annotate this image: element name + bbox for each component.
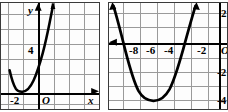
left-origin-label: O [42, 95, 50, 106]
right-x-tick-label-neg6: -6 [146, 45, 155, 56]
left-x-axis-name: x [88, 95, 94, 106]
left-y-axis-arrow [35, 3, 42, 11]
right-y-tick-label-neg4: -4 [217, 95, 226, 106]
right-origin-label: O [221, 45, 228, 56]
right-x-tick-label-neg2: -2 [197, 45, 206, 56]
right-y-tick-label-neg2: -2 [217, 67, 226, 78]
left-y-axis-name: y [28, 5, 33, 16]
right-coordinate-graph: -8 -6 -4 -2 O 2 -2 -4 [108, 2, 228, 110]
right-x-tick-label-neg8: -8 [129, 45, 138, 56]
right-parabola-curve [109, 3, 227, 109]
right-curve-left-arrow [109, 3, 116, 10]
left-coordinate-graph: -2 O 4 y x [0, 2, 100, 110]
left-x-tick-label-neg2: -2 [10, 95, 19, 106]
right-y-tick-label-2: 2 [221, 8, 227, 19]
figure-container: -2 O 4 y x -8 [0, 0, 228, 112]
right-x-tick-label-neg4: -4 [164, 45, 173, 56]
left-y-tick-label-4: 4 [28, 45, 34, 56]
right-x-axis-left-arrow [109, 39, 117, 46]
